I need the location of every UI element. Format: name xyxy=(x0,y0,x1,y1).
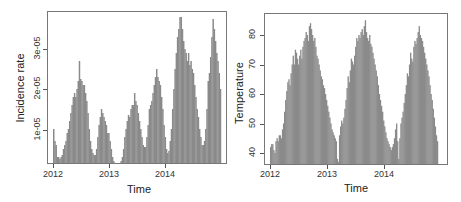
y-tick-mark xyxy=(43,130,47,131)
y-tick-label: 2e-05 xyxy=(32,73,42,103)
temperature-chart-panel: 40 50 60 70 80 Temperature 2012 2013 201… xyxy=(230,0,461,202)
temperature-bars xyxy=(265,14,447,164)
y-tick-mark xyxy=(43,49,47,50)
y-axis-title: Incidence rate xyxy=(14,48,26,128)
data-bar xyxy=(220,89,221,163)
y-tick-mark xyxy=(43,89,47,90)
y-tick-label: 70 xyxy=(247,54,257,74)
y-tick-label: 3e-05 xyxy=(32,33,42,63)
x-tick-label: 2012 xyxy=(260,169,280,179)
x-tick-label: 2014 xyxy=(374,169,394,179)
y-tick-label: 60 xyxy=(247,83,257,103)
temperature-plot-area xyxy=(264,13,448,165)
x-tick-label: 2012 xyxy=(43,169,63,179)
y-tick-mark xyxy=(260,124,264,125)
x-tick-mark xyxy=(165,164,166,168)
y-tick-mark xyxy=(260,94,264,95)
data-bar xyxy=(113,161,114,163)
y-tick-label: 80 xyxy=(247,24,257,44)
incidence-plot-area xyxy=(47,11,227,164)
y-axis-title: Temperature xyxy=(233,53,245,133)
y-tick-label: 1e-05 xyxy=(32,114,42,144)
x-tick-mark xyxy=(53,164,54,168)
y-tick-label: 40 xyxy=(247,142,257,162)
y-tick-label: 50 xyxy=(247,113,257,133)
y-tick-mark xyxy=(260,65,264,66)
incidence-bars xyxy=(48,12,226,163)
x-tick-label: 2013 xyxy=(99,169,119,179)
x-axis-title: Time xyxy=(344,182,368,194)
x-tick-label: 2014 xyxy=(155,169,175,179)
x-tick-mark xyxy=(109,164,110,168)
incidence-chart-panel: 1e-05 2e-05 3e-05 Incidence rate 2012 20… xyxy=(0,0,230,202)
y-tick-mark xyxy=(260,153,264,154)
data-bar xyxy=(437,141,438,164)
y-tick-mark xyxy=(260,35,264,36)
x-axis-title: Time xyxy=(127,183,151,195)
x-tick-label: 2013 xyxy=(317,169,337,179)
